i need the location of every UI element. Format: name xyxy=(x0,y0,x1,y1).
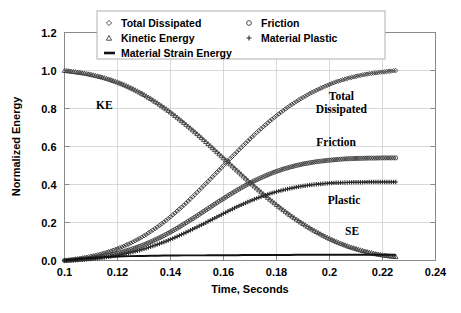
legend-item-material-plastic[interactable]: Material Plastic xyxy=(246,32,337,44)
energy-chart: 0.10.120.140.160.180.20.220.24 0.00.20.4… xyxy=(0,0,461,313)
x-tick-label: 0.18 xyxy=(266,266,287,278)
annotation-friction: Friction xyxy=(316,136,356,148)
x-tick-label: 0.1 xyxy=(57,266,72,278)
annotation-total: Total xyxy=(329,90,354,102)
annotation-dissipated: Dissipated xyxy=(316,103,368,116)
y-tick-label: 1.0 xyxy=(41,65,56,77)
y-tick-label: 0.8 xyxy=(41,103,56,115)
x-tick-label: 0.14 xyxy=(160,266,182,278)
y-tick-label: 0.6 xyxy=(41,141,56,153)
legend-label: Kinetic Energy xyxy=(121,32,195,44)
x-tick-label: 0.12 xyxy=(107,266,128,278)
legend-label: Material Plastic xyxy=(261,32,338,44)
y-tick-label: 0.2 xyxy=(41,217,56,229)
y-axis-title: Normalized Energy xyxy=(10,96,22,197)
x-tick-label: 0.16 xyxy=(213,266,234,278)
chart-legend[interactable]: Total DissipatedFrictionKinetic EnergyMa… xyxy=(97,11,385,59)
annotation-plastic: Plastic xyxy=(328,194,361,206)
y-tick-label: 1.2 xyxy=(41,27,56,39)
legend-item-total-dissipated[interactable]: Total Dissipated xyxy=(106,17,201,29)
x-tick-label: 0.24 xyxy=(425,266,447,278)
chart-root: 0.10.120.140.160.180.20.220.24 0.00.20.4… xyxy=(0,0,461,313)
annotation-se: SE xyxy=(345,225,359,237)
y-tick-label: 0.4 xyxy=(41,179,57,191)
y-tick-label: 0.0 xyxy=(41,255,56,267)
legend-label: Material Strain Energy xyxy=(121,47,232,59)
annotation-ke: KE xyxy=(96,99,113,111)
x-axis-title: Time, Seconds xyxy=(211,283,288,295)
x-tick-label: 0.22 xyxy=(372,266,393,278)
x-tick-label: 0.2 xyxy=(322,266,337,278)
legend-label: Friction xyxy=(261,17,300,29)
legend-item-material-strain-energy[interactable]: Material Strain Energy xyxy=(104,47,232,59)
legend-label: Total Dissipated xyxy=(121,17,201,29)
